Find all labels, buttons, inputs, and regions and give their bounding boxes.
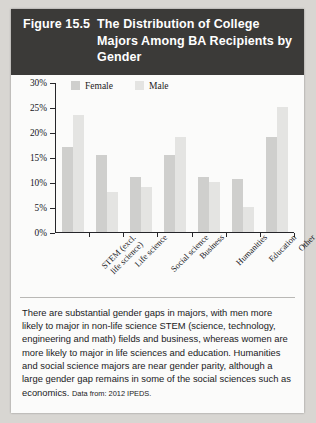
- bar-female: [130, 177, 141, 232]
- bar-group: [226, 83, 260, 232]
- legend-swatch-icon: [135, 81, 144, 90]
- legend-label: Male: [149, 81, 169, 91]
- bar-male: [175, 137, 186, 231]
- figure-card: Figure 15.5 The Distribution of College …: [11, 9, 304, 413]
- bar-male: [141, 187, 152, 232]
- figure-number: Figure 15.5: [23, 16, 90, 33]
- bar-female: [62, 147, 73, 231]
- y-axis-tick-label: 20%: [30, 128, 47, 138]
- y-axis-tick: 15%: [50, 158, 55, 159]
- caption-body: There are substantial gender gaps in maj…: [22, 307, 291, 398]
- bar-group: [158, 83, 192, 232]
- legend-entry-male: Male: [135, 81, 169, 91]
- bar-female: [232, 179, 243, 231]
- bar-chart: FemaleMale 30%25%20%15%10%5%0% STEM (exc…: [11, 75, 304, 297]
- legend-swatch-icon: [71, 81, 80, 90]
- legend-label: Female: [85, 81, 113, 91]
- x-axis-label: Education: [267, 233, 298, 264]
- bar-group: [90, 83, 124, 232]
- chart-legend: FemaleMale: [71, 81, 169, 91]
- y-axis-tick-label: 30%: [30, 78, 47, 88]
- y-axis-tick-label: 0%: [35, 228, 47, 238]
- bar-group: [124, 83, 158, 232]
- y-axis-tick: 5%: [50, 208, 55, 209]
- bar-group: [192, 83, 226, 232]
- bar-groups: [56, 83, 294, 232]
- figure-header: Figure 15.5 The Distribution of College …: [11, 9, 304, 75]
- y-axis-tick: 0%: [50, 233, 55, 234]
- y-axis-tick-label: 15%: [30, 153, 47, 163]
- legend-entry-female: Female: [71, 81, 113, 91]
- bar-group: [56, 83, 90, 232]
- bar-male: [243, 207, 254, 232]
- bar-male: [209, 182, 220, 232]
- caption-source: Data from: 2012 IPEDS.: [72, 389, 151, 398]
- y-axis-tick-label: 10%: [30, 178, 47, 188]
- bar-female: [266, 137, 277, 231]
- x-axis-label: Humanities: [235, 233, 270, 268]
- bar-female: [96, 155, 107, 232]
- bar-male: [277, 107, 288, 231]
- figure-caption: There are substantial gender gaps in maj…: [11, 298, 304, 406]
- y-axis-tick: 30%: [50, 83, 55, 84]
- plot-area: 30%25%20%15%10%5%0%: [55, 83, 294, 233]
- bar-male: [107, 192, 118, 232]
- bar-group: [260, 83, 294, 232]
- y-axis-tick: 10%: [50, 183, 55, 184]
- bar-female: [198, 177, 209, 232]
- bar-female: [164, 155, 175, 232]
- x-axis-label: Other: [297, 233, 315, 254]
- figure-title: The Distribution of College Majors Among…: [97, 16, 294, 66]
- y-axis-tick-label: 25%: [30, 103, 47, 113]
- x-axis-labels: STEM (excl. life science)Life scienceSoc…: [56, 233, 294, 287]
- y-axis-tick-label: 5%: [35, 203, 47, 213]
- y-axis-tick: 25%: [50, 108, 55, 109]
- bar-male: [73, 115, 84, 232]
- y-axis-tick: 20%: [50, 133, 55, 134]
